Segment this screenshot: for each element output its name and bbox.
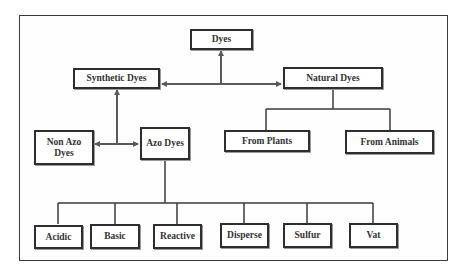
node-label: Reactive [160, 231, 195, 242]
node-synthetic-dyes: Synthetic Dyes [73, 68, 160, 89]
node-label: Non Azo Dyes [44, 137, 84, 159]
natural-tree-lines [266, 88, 390, 130]
node-label: From Plants [242, 136, 292, 147]
dyes-branch-arrows [162, 51, 281, 84]
node-acidic: Acidic [34, 225, 83, 249]
node-label: Vat [367, 230, 381, 241]
node-label: Disperse [227, 230, 262, 241]
azo-tree-lines [58, 159, 373, 224]
node-label: Basic [104, 231, 126, 242]
node-basic: Basic [90, 224, 140, 249]
node-reactive: Reactive [153, 224, 202, 249]
node-label: Natural Dyes [306, 73, 360, 84]
node-vat: Vat [349, 223, 398, 248]
node-label: Synthetic Dyes [87, 73, 147, 84]
node-label: From Animals [360, 137, 418, 148]
node-non-azo-dyes: Non Azo Dyes [34, 130, 94, 165]
node-disperse: Disperse [220, 223, 269, 248]
node-label: Azo Dyes [146, 138, 184, 149]
node-natural-dyes: Natural Dyes [283, 67, 383, 89]
synthetic-branch-arrows [95, 90, 138, 144]
node-label: Acidic [46, 232, 72, 243]
node-from-plants: From Plants [224, 130, 310, 152]
node-from-animals: From Animals [345, 130, 434, 154]
node-sulfur: Sulfur [283, 223, 332, 248]
node-dyes: Dyes [190, 29, 253, 50]
node-label: Sulfur [295, 230, 321, 241]
node-label: Dyes [212, 34, 232, 45]
node-azo-dyes: Azo Dyes [140, 127, 190, 160]
